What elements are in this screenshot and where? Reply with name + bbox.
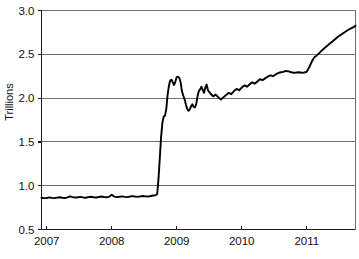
data-series-group — [42, 26, 356, 198]
x-tick-label: 2010 — [229, 235, 255, 247]
gridlines — [42, 11, 356, 186]
y-tick-label: 1.0 — [19, 180, 35, 192]
data-line-total — [42, 26, 356, 198]
x-tick-labels: 20072008200920102011 — [34, 235, 319, 247]
x-tick-label: 2011 — [294, 235, 319, 247]
y-tick-label: 2.5 — [19, 48, 35, 60]
y-tick-label: 2.0 — [19, 92, 35, 104]
y-tick-label: 0.5 — [19, 224, 35, 236]
chart-plot-area: 0.51.01.52.02.53.0 20072008200920102011 — [0, 0, 359, 259]
y-tick-label: 1.5 — [19, 136, 35, 148]
x-tick-label: 2007 — [34, 235, 60, 247]
x-tick-label: 2008 — [99, 235, 125, 247]
x-tick-label: 2009 — [164, 235, 190, 247]
chart-figure: Trillions 0.51.01.52.02.53.0 20072008200… — [0, 0, 359, 259]
y-tick-labels: 0.51.01.52.02.53.0 — [19, 5, 35, 236]
y-tick-label: 3.0 — [19, 5, 35, 17]
